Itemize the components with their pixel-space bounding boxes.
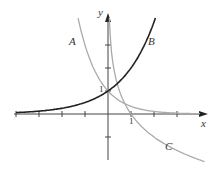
curve-a xyxy=(78,18,200,114)
ticks xyxy=(16,45,177,137)
graph-canvas xyxy=(0,0,217,169)
curve-c xyxy=(109,18,204,162)
x-tick-label-1: 1 xyxy=(129,116,134,126)
y-axis-arrow-icon xyxy=(105,13,111,22)
y-axis-label: y xyxy=(98,6,103,18)
curve-c-label: C xyxy=(165,140,172,152)
y-tick-label-1: 1 xyxy=(99,84,104,94)
axes xyxy=(14,13,208,160)
curve-b-label: B xyxy=(148,35,155,47)
curve-b xyxy=(16,18,155,113)
x-axis-label: x xyxy=(201,117,206,129)
curve-a-label: A xyxy=(69,35,76,47)
